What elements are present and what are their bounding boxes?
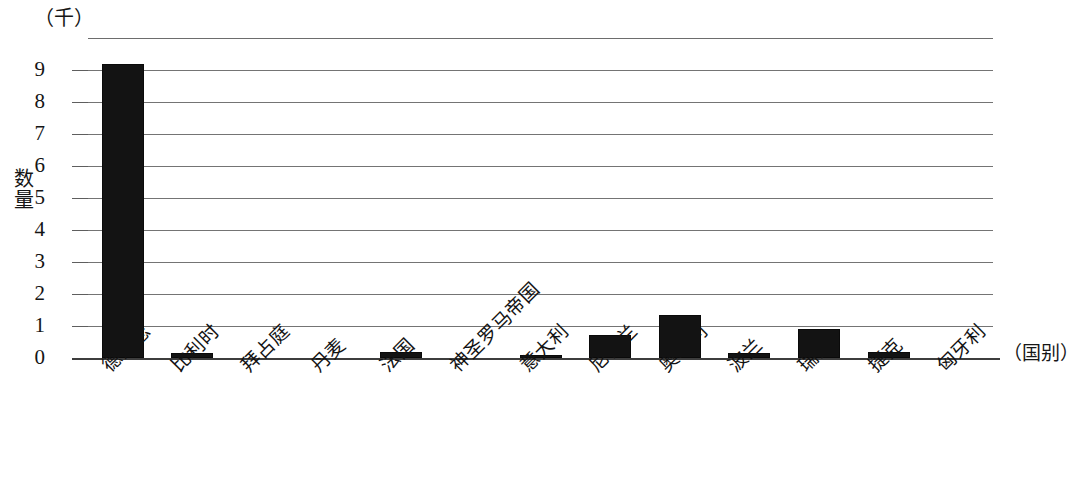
- bars-layer: [88, 38, 993, 358]
- y-axis-tick-label-8: 8: [21, 91, 45, 112]
- y-axis-tick-mark-5: [72, 198, 88, 199]
- bar: [102, 64, 144, 358]
- y-axis-tick-mark-8: [72, 102, 88, 103]
- y-axis-tick-label-1: 1: [21, 315, 45, 336]
- y-axis-tick-label-7: 7: [21, 123, 45, 144]
- bar-chart: （千） 数量 （国别） 9876543210 德意志比利时拜占庭丹麦法国神圣罗马…: [0, 0, 1077, 485]
- y-axis-tick-mark-4: [72, 230, 88, 231]
- y-axis-tick-label-3: 3: [21, 251, 45, 272]
- y-axis-tick-label-4: 4: [21, 219, 45, 240]
- y-axis-tick-label-0: 0: [21, 347, 45, 368]
- y-axis-tick-label-9: 9: [21, 59, 45, 80]
- y-axis-tick-mark-2: [72, 294, 88, 295]
- y-axis-tick-mark-7: [72, 134, 88, 135]
- y-axis-tick-label-6: 6: [21, 155, 45, 176]
- y-axis-tick-mark-3: [72, 262, 88, 263]
- y-axis-unit-caption: （千）: [34, 2, 94, 31]
- x-axis-caption: （国别）: [1003, 338, 1077, 365]
- y-axis-tick-mark-9: [72, 70, 88, 71]
- y-axis-tick-label-5: 5: [21, 187, 45, 208]
- y-axis-tick-label-2: 2: [21, 283, 45, 304]
- x-axis-label-layer: 德意志比利时拜占庭丹麦法国神圣罗马帝国意大利尼德兰奥地利波兰瑞士捷克匈牙利: [88, 362, 993, 482]
- y-axis-tick-mark-1: [72, 326, 88, 327]
- y-axis-tick-mark-6: [72, 166, 88, 167]
